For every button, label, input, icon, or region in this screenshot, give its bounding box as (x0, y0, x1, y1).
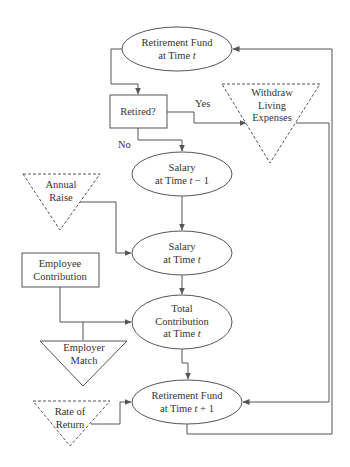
label-text: + 1 (197, 402, 213, 413)
node-label-line: Annual (46, 179, 77, 192)
node-label-line: Expenses (251, 112, 293, 125)
edge-employee-to-total (60, 287, 131, 322)
label-text: at Time (163, 328, 197, 339)
node-fund-next: Retirement Fund at Time t + 1 (152, 390, 223, 415)
node-label-line: Living (251, 100, 293, 113)
node-employee-contribution: Employee Contribution (33, 258, 87, 283)
node-withdraw: Withdraw Living Expenses (251, 87, 293, 125)
node-label-line: at Time t (163, 253, 200, 266)
node-label-line: Contribution (33, 270, 87, 283)
node-label-line: at Time t (142, 49, 213, 62)
node-label-line: Withdraw (251, 87, 293, 100)
node-employer-match: Employer Match (63, 342, 104, 367)
label-variable: t (198, 253, 201, 264)
label-text: at Time (163, 253, 197, 264)
label-text: at Time (158, 49, 192, 60)
node-label-line: Salary (163, 241, 200, 254)
node-label-line: at Time t + 1 (152, 402, 223, 415)
node-label-line: Rate of (55, 406, 86, 419)
label-text: at Time (160, 402, 194, 413)
edge-label-yes: Yes (195, 98, 210, 109)
node-total-contribution: Total Contribution at Time t (155, 303, 209, 341)
node-label-line: at Time t − 1 (155, 174, 209, 187)
edge-withdraw-to-fund-next (243, 123, 329, 402)
node-label-line: Employee (33, 258, 87, 271)
node-rate-of-return: Rate of Return (55, 406, 86, 431)
edge-total-to-fund-next (182, 349, 188, 379)
node-annual-raise: Annual Raise (46, 179, 77, 204)
node-label-line: Raise (46, 191, 77, 204)
label-text: − 1 (192, 174, 208, 185)
node-label-line: at Time t (155, 328, 209, 341)
node-label-line: Retirement Fund (142, 37, 213, 50)
edge-raise-to-salary-t (80, 202, 131, 253)
node-label-line: Retired? (120, 106, 156, 119)
node-label-line: Contribution (155, 316, 209, 329)
node-label-line: Retirement Fund (152, 390, 223, 403)
node-salary-t: Salary at Time t (163, 241, 200, 266)
node-label-line: Employer (63, 342, 104, 355)
label-variable: t (193, 49, 196, 60)
edge-label-no: No (118, 139, 131, 150)
edge-retired-yes-to-withdraw (167, 112, 246, 123)
label-text: at Time (155, 174, 189, 185)
node-salary-prev: Salary at Time t − 1 (155, 162, 209, 187)
label-variable: t (198, 328, 201, 339)
node-label-line: Return (55, 418, 86, 431)
node-label-line: Salary (155, 162, 209, 175)
edge-retired-no-to-salary-prev (138, 128, 182, 151)
node-fund-t: Retirement Fund at Time t (142, 37, 213, 62)
node-label-line: Total (155, 303, 209, 316)
node-retired: Retired? (120, 106, 156, 119)
node-label-line: Match (63, 354, 104, 367)
